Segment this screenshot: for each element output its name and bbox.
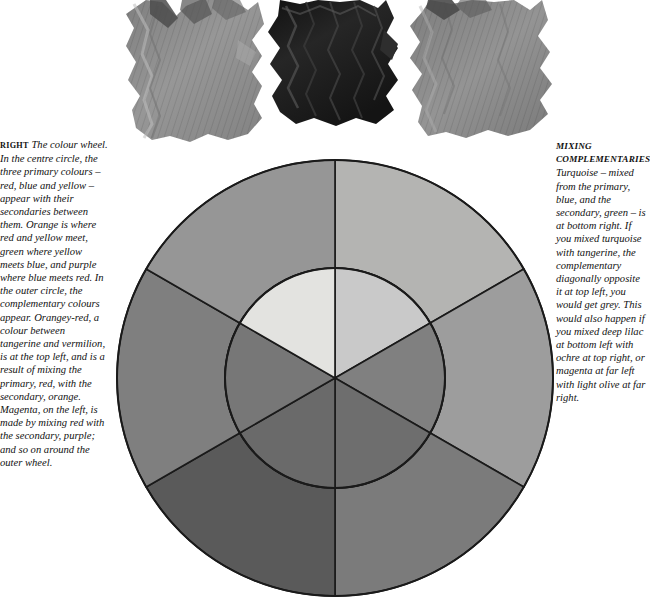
caption-left-lead: RIGHT — [0, 141, 29, 150]
caption-left: RIGHT The colour wheel. In the centre ci… — [0, 138, 108, 469]
swatch-centre — [268, 0, 398, 126]
paint-swatches-graphic — [0, 0, 650, 152]
caption-right-heading-line1: MIXING — [556, 140, 648, 153]
swatch-left — [126, 0, 264, 142]
caption-right-heading-line2: COMPLEMENTARIES — [556, 153, 648, 166]
caption-left-body: The colour wheel. In the centre circle, … — [0, 139, 108, 468]
colour-wheel-graphic: ochretangerinemagentadeep lilacturquoise… — [113, 156, 559, 601]
swatch-right — [410, 0, 552, 138]
paint-swatch-strip — [0, 0, 650, 152]
caption-right: MIXING COMPLEMENTARIES Turquoise – mixed… — [556, 140, 648, 404]
colour-wheel: ochretangerinemagentadeep lilacturquoise… — [113, 156, 559, 601]
inner-circle: orangeredpurplebluegreenyellow — [225, 268, 445, 488]
caption-right-body: Turquoise – mixed from the primary, blue… — [556, 167, 646, 402]
